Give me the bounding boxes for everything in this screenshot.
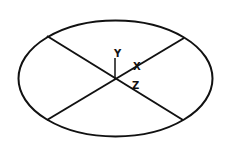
ellipse-axes-diagram: Y X Z	[0, 0, 228, 153]
x-axis-label: X	[133, 61, 141, 72]
y-axis-label: Y	[113, 48, 122, 59]
z-axis-label: Z	[132, 80, 139, 91]
